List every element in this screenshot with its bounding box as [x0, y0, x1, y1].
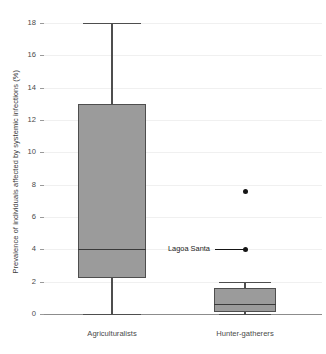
outlier-point [243, 189, 248, 194]
whisker-upper [111, 23, 112, 104]
y-tick-mark [40, 152, 44, 153]
y-tick-label: 12 [10, 116, 36, 124]
y-tick-label: 2 [10, 278, 36, 286]
whisker-lower [111, 278, 112, 314]
y-tick-mark [40, 55, 44, 56]
annotation-leader-line [215, 249, 245, 250]
y-tick-label: 10 [10, 148, 36, 156]
y-tick-mark [40, 23, 44, 24]
annotation-label: Lagoa Santa [168, 245, 210, 252]
x-tick-label-hunter-gatherers: Hunter-gatherers [185, 330, 305, 338]
whisker-cap-lower [83, 314, 140, 315]
y-tick-mark [40, 185, 44, 186]
median-line [214, 304, 276, 305]
y-tick-label: 18 [10, 19, 36, 27]
y-tick-label: 6 [10, 213, 36, 221]
box-hunter-gatherers [214, 288, 276, 312]
gridline [44, 88, 322, 89]
y-tick-label: 16 [10, 51, 36, 59]
y-tick-mark [40, 249, 44, 250]
y-tick-label: 14 [10, 84, 36, 92]
y-tick-label: 0 [10, 310, 36, 318]
gridline [44, 55, 322, 56]
median-line [78, 249, 146, 250]
y-tick-mark [40, 120, 44, 121]
y-tick-label: 8 [10, 181, 36, 189]
x-tick-label-agriculturalists: Agriculturalists [52, 330, 172, 338]
whisker-cap-upper [83, 23, 140, 24]
y-tick-mark [40, 88, 44, 89]
y-tick-mark [40, 217, 44, 218]
y-tick-label: 4 [10, 245, 36, 253]
box-plot-figure: Prevalence of individuals affected by sy… [0, 0, 326, 354]
y-tick-mark [40, 282, 44, 283]
box-agriculturalists [78, 104, 146, 279]
whisker-cap-upper [219, 282, 271, 283]
gridline [44, 282, 322, 283]
whisker-cap-lower [219, 314, 271, 315]
plot-area: 024681012141618 Lagoa Santa Agricultural… [40, 14, 322, 320]
